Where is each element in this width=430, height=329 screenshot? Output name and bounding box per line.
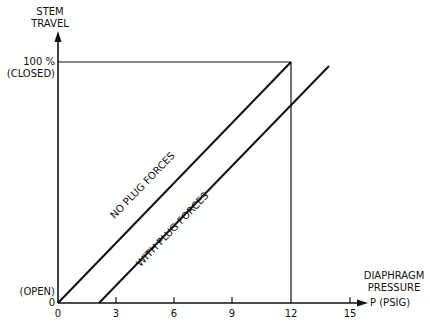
- x-tick-0: 0: [48, 308, 68, 319]
- series-with-plug-forces: [99, 66, 329, 303]
- y-note-closed: (CLOSED): [0, 68, 55, 79]
- y-tick-0: 0: [0, 297, 55, 308]
- y-axis-title-2: TRAVEL: [20, 18, 80, 29]
- y-axis-arrow-icon: [55, 31, 62, 42]
- x-axis-title-2: PRESSURE: [358, 282, 430, 293]
- x-ticks: [116, 297, 350, 303]
- y-note-open: (OPEN): [0, 286, 55, 297]
- x-tick-3: 3: [106, 308, 126, 319]
- series-no-plug-forces: [58, 62, 291, 303]
- x-tick-9: 9: [222, 308, 242, 319]
- x-tick-12: 12: [281, 308, 301, 319]
- x-axis-title-3: P (PSIG): [370, 297, 410, 308]
- y-axis-title-1: STEM: [20, 6, 80, 17]
- x-tick-15: 15: [340, 308, 360, 319]
- y-tick-100: 100 %: [0, 56, 55, 67]
- x-axis-arrow-icon: [357, 300, 368, 307]
- x-axis-title-1: DIAPHRAGM: [358, 270, 430, 281]
- x-tick-6: 6: [164, 308, 184, 319]
